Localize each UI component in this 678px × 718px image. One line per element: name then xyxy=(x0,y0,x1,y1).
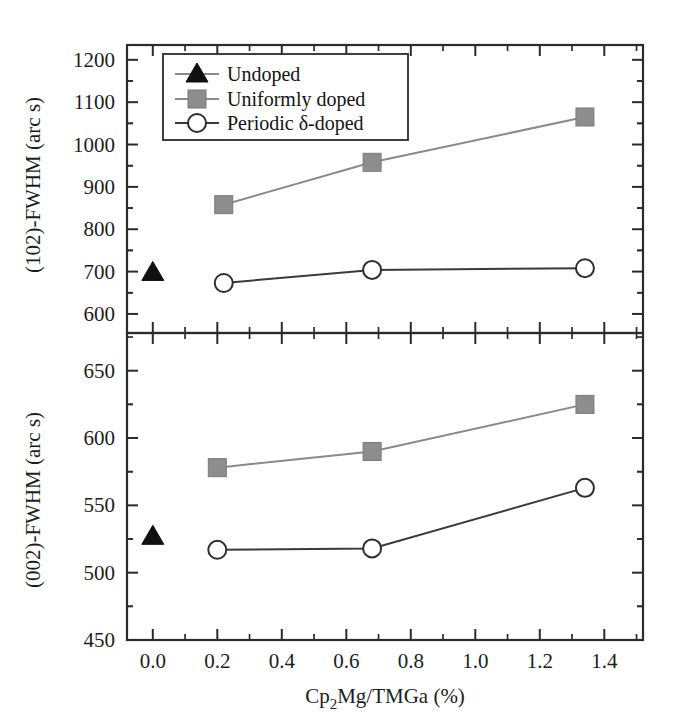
y-tick-label: 600 xyxy=(84,302,116,326)
x-tick-label: 1.0 xyxy=(462,649,488,673)
x-tick-label: 1.2 xyxy=(527,649,553,673)
dual-panel-line-chart: (102)-FWHM (arc s) (002)-FWHM (arc s) 60… xyxy=(0,0,678,718)
y-tick-label: 550 xyxy=(84,493,116,517)
y-tick-label: 450 xyxy=(84,628,116,652)
plot-frame xyxy=(127,333,643,640)
y-tick-label: 1000 xyxy=(73,133,115,157)
legend-item-uniformly-doped: Uniformly doped xyxy=(175,88,365,111)
y-tick-label: 900 xyxy=(84,175,116,199)
data-point-square xyxy=(576,395,594,413)
data-point-circle xyxy=(576,479,594,497)
data-point-square xyxy=(363,442,381,460)
data-point-square xyxy=(215,196,233,214)
y-tick-label: 650 xyxy=(84,359,116,383)
data-point-triangle xyxy=(142,525,164,544)
series-line-uniformly-doped xyxy=(217,404,585,467)
data-point-circle xyxy=(363,261,381,279)
x-axis-title: Cp2Mg/TMGa (%) xyxy=(305,684,465,712)
data-point-circle xyxy=(208,541,226,559)
data-point-square xyxy=(576,108,594,126)
y-axis-title-bottom: (002)-FWHM (arc s) xyxy=(21,412,45,588)
data-point-circle xyxy=(576,259,594,277)
x-tick-label: 0.8 xyxy=(398,649,424,673)
data-point-circle xyxy=(215,274,233,292)
legend-marker-square-icon xyxy=(188,90,206,108)
x-axis-title-sub: 2 xyxy=(330,696,338,712)
legend: UndopedUniformly dopedPeriodic δ-doped xyxy=(163,54,408,140)
y-axis-title-top: (102)-FWHM (arc s) xyxy=(21,97,45,273)
legend-label: Periodic δ-doped xyxy=(227,112,364,135)
x-tick-label: 0.4 xyxy=(269,649,296,673)
x-axis-title-pre: Cp xyxy=(305,684,330,708)
legend-label: Undoped xyxy=(227,63,300,86)
legend-marker-circle-icon xyxy=(188,114,206,132)
y-tick-label: 700 xyxy=(84,260,116,284)
data-point-circle xyxy=(363,539,381,557)
lower-panel: 4505005506006500.00.20.40.60.81.01.21.4 xyxy=(84,333,644,673)
x-tick-label: 1.4 xyxy=(591,649,618,673)
y-tick-label: 800 xyxy=(84,217,116,241)
legend-label: Uniformly doped xyxy=(227,88,365,111)
series-line-periodic-doped xyxy=(217,488,585,550)
data-point-triangle xyxy=(142,261,164,280)
figure-container: (102)-FWHM (arc s) (002)-FWHM (arc s) 60… xyxy=(0,0,678,718)
x-tick-label: 0.2 xyxy=(204,649,230,673)
x-tick-label: 0.0 xyxy=(140,649,166,673)
x-axis-title-post: Mg/TMGa (%) xyxy=(337,684,465,708)
y-tick-label: 1100 xyxy=(74,90,115,114)
series-line-periodic-doped xyxy=(224,268,585,283)
y-tick-label: 1200 xyxy=(73,48,115,72)
y-tick-label: 500 xyxy=(84,561,116,585)
x-tick-label: 0.6 xyxy=(333,649,359,673)
data-point-square xyxy=(363,153,381,171)
data-point-square xyxy=(208,459,226,477)
y-tick-label: 600 xyxy=(84,426,116,450)
